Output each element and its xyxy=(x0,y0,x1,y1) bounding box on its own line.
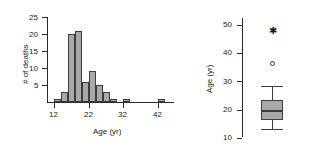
histogram-y-tick-5: 5 xyxy=(34,82,38,90)
histogram-x-tick-32: 32 xyxy=(118,111,127,119)
boxplot-y-tick-30: 30 xyxy=(223,78,232,86)
histogram-y-tick-15: 15 xyxy=(29,48,38,56)
boxplot-y-tick-50: 50 xyxy=(223,21,232,29)
boxplot-y-tick-mark xyxy=(237,138,242,139)
histogram-x-tick-mark xyxy=(123,103,124,108)
histogram-panel: # of deaths 25 20 15 10 5 xyxy=(0,0,180,159)
figure-container: # of deaths 25 20 15 10 5 xyxy=(0,0,317,159)
histogram-bar xyxy=(68,34,75,102)
boxplot-y-tick-20: 20 xyxy=(223,106,232,114)
histogram-bar xyxy=(82,82,89,102)
boxplot-upper-whisker xyxy=(272,86,273,100)
histogram-x-tick-12: 12 xyxy=(49,111,58,119)
histogram-x-tick-mark xyxy=(54,103,55,108)
histogram-x-tick-42: 42 xyxy=(153,111,162,119)
histogram-x-tick-mark xyxy=(89,103,90,108)
histogram-x-axis-line xyxy=(47,102,174,103)
histogram-bar xyxy=(96,85,103,102)
boxplot-panel: Age (yr) 50 40 30 20 10 ✱ xyxy=(180,0,317,159)
histogram-x-axis-title: Age (yr) xyxy=(93,128,121,136)
histogram-y-tick-25: 25 xyxy=(29,14,38,22)
histogram-x-tick-22: 22 xyxy=(84,111,93,119)
histogram-x-tick-mark xyxy=(158,103,159,108)
boxplot-plot-area: ✱ xyxy=(242,18,304,136)
boxplot-lower-whisker xyxy=(272,120,273,129)
boxplot-y-tick-10: 10 xyxy=(223,134,232,142)
boxplot-y-axis-title: Age (yr) xyxy=(206,65,214,93)
boxplot-lower-whisker-cap xyxy=(261,129,283,130)
histogram-y-tick-20: 20 xyxy=(29,31,38,39)
boxplot-outlier-circle xyxy=(270,61,275,66)
histogram-plot-area xyxy=(47,17,172,102)
boxplot-outlier-asterisk: ✱ xyxy=(269,28,277,34)
histogram-y-tick-10: 10 xyxy=(29,65,38,73)
boxplot-y-tick-40: 40 xyxy=(223,49,232,57)
boxplot-median-line xyxy=(261,110,283,111)
